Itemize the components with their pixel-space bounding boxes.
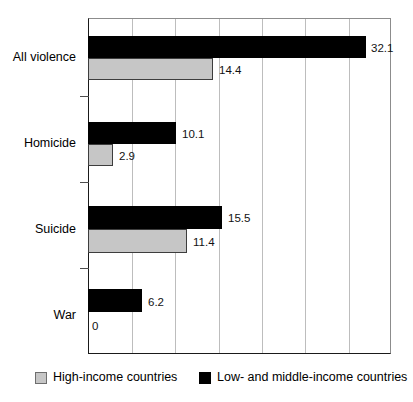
value-label-homicide-low-middle-income: 10.1 — [182, 128, 204, 140]
legend-label-high-income: High-income countries — [53, 371, 177, 384]
category-label-homicide: Homicide — [0, 137, 76, 150]
category-label-all-violence: All violence — [0, 51, 76, 64]
value-label-all-violence-high-income: 14.4 — [219, 64, 241, 76]
legend-label-low-middle-income: Low- and middle-income countries — [217, 371, 407, 384]
gridline-30 — [349, 19, 350, 353]
value-label-homicide-high-income: 2.9 — [119, 150, 135, 162]
value-label-war-high-income: 0 — [92, 320, 98, 332]
legend-swatch-high-income-icon — [35, 372, 47, 384]
bar-homicide-low-middle-income — [88, 122, 176, 144]
category-tick-3 — [80, 268, 89, 269]
value-label-suicide-high-income: 11.4 — [193, 236, 215, 248]
bar-all-violence-low-middle-income — [88, 36, 366, 58]
legend-item-high-income: High-income countries — [35, 371, 177, 384]
value-label-war-low-middle-income: 6.2 — [148, 296, 164, 308]
category-tick-1 — [80, 96, 89, 97]
legend-item-low-middle-income: Low- and middle-income countries — [199, 371, 407, 384]
chart-legend: High-income countries Low- and middle-in… — [0, 366, 413, 390]
category-label-war: War — [0, 309, 76, 322]
gridline-25 — [305, 19, 306, 353]
bar-suicide-low-middle-income — [88, 206, 222, 229]
legend-swatch-low-middle-income-icon — [199, 372, 211, 384]
category-tick-2 — [80, 182, 89, 183]
bar-all-violence-high-income — [88, 58, 213, 80]
category-label-suicide: Suicide — [0, 223, 76, 236]
bar-suicide-high-income — [88, 229, 187, 253]
bar-war-low-middle-income — [88, 289, 142, 312]
bar-chart: All violence Homicide Suicide War 32.1 1… — [0, 0, 413, 402]
value-label-suicide-low-middle-income: 15.5 — [228, 212, 250, 224]
gridline-20 — [262, 19, 263, 353]
bar-homicide-high-income — [88, 144, 113, 166]
value-label-all-violence-low-middle-income: 32.1 — [371, 42, 393, 54]
